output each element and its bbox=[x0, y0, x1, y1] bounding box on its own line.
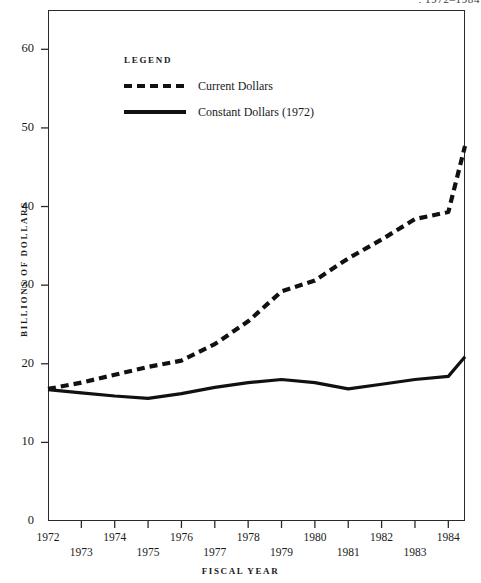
y-tick-label: 50 bbox=[0, 120, 34, 135]
x-tick-label: 1982 bbox=[360, 531, 404, 543]
x-tick-label: 1984 bbox=[426, 531, 470, 543]
x-tick-label: 1978 bbox=[226, 531, 270, 543]
x-tick-label: 1974 bbox=[93, 531, 137, 543]
x-tick-label: 1983 bbox=[393, 546, 437, 558]
legend-item-constant-dollars: Constant Dollars (1972) bbox=[124, 105, 334, 119]
x-tick-label: 1977 bbox=[193, 546, 237, 558]
chart-figure: , 1972–1984 0102030405060 19721973197419… bbox=[0, 0, 481, 583]
legend-title: LEGEND bbox=[124, 55, 334, 65]
x-tick-label: 1976 bbox=[159, 531, 203, 543]
x-tick-label: 1975 bbox=[126, 546, 170, 558]
legend: LEGEND Current Dollars Constant Dollars … bbox=[124, 55, 334, 131]
x-tick-label: 1973 bbox=[59, 546, 103, 558]
x-tick-label: 1980 bbox=[293, 531, 337, 543]
legend-label-constant-dollars: Constant Dollars (1972) bbox=[198, 105, 314, 120]
x-tick-label: 1972 bbox=[26, 531, 70, 543]
y-tick-label: 10 bbox=[0, 434, 34, 449]
legend-swatch-solid-icon bbox=[124, 110, 186, 114]
x-tick-label: 1979 bbox=[260, 546, 304, 558]
x-tick-label: 1981 bbox=[326, 546, 370, 558]
y-tick-label: 0 bbox=[0, 513, 34, 528]
legend-label-current-dollars: Current Dollars bbox=[198, 79, 273, 94]
y-axis-title: BILLIONS OF DOLLARS bbox=[19, 169, 29, 369]
figure-title-remnant: , 1972–1984 bbox=[290, 0, 480, 3]
legend-item-current-dollars: Current Dollars bbox=[124, 79, 334, 93]
legend-swatch-dashed-icon bbox=[124, 84, 186, 88]
y-tick-label: 60 bbox=[0, 41, 34, 56]
x-axis-title: FISCAL YEAR bbox=[0, 566, 481, 576]
